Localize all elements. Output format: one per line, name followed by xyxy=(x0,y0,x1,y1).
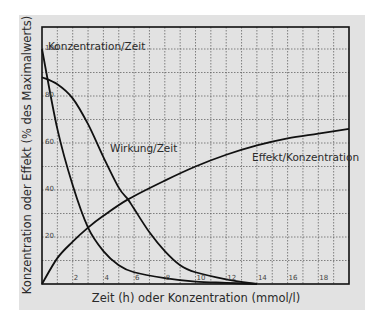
series-label-konzentration-zeit: Konzentration/Zeit xyxy=(48,40,145,52)
y-tick-label: 40 xyxy=(45,185,54,193)
x-tick-label: 4 xyxy=(104,274,108,282)
y-tick-label: 60 xyxy=(45,138,54,146)
y-axis-label: Konzentration oder Effekt (% des Maximal… xyxy=(20,16,34,294)
y-tick-label: 80 xyxy=(45,91,54,99)
x-axis-label: Zeit (h) oder Konzentration (mmol/l) xyxy=(92,291,300,305)
series-label-wirkung-zeit: Wirkung/Zeit xyxy=(110,142,177,154)
x-tick-label: 12 xyxy=(227,274,236,282)
x-tick-label: 16 xyxy=(289,274,298,282)
y-tick-label: 20 xyxy=(45,232,54,240)
x-tick-label: 14 xyxy=(258,274,267,282)
x-tick-label: 6 xyxy=(135,274,139,282)
series-label-effekt-konzentration: Effekt/Konzentration xyxy=(252,151,359,163)
x-tick-label: 10 xyxy=(197,274,206,282)
x-tick-label: 18 xyxy=(319,274,328,282)
x-tick-label: 2 xyxy=(74,274,78,282)
x-tick-label: 8 xyxy=(166,274,170,282)
